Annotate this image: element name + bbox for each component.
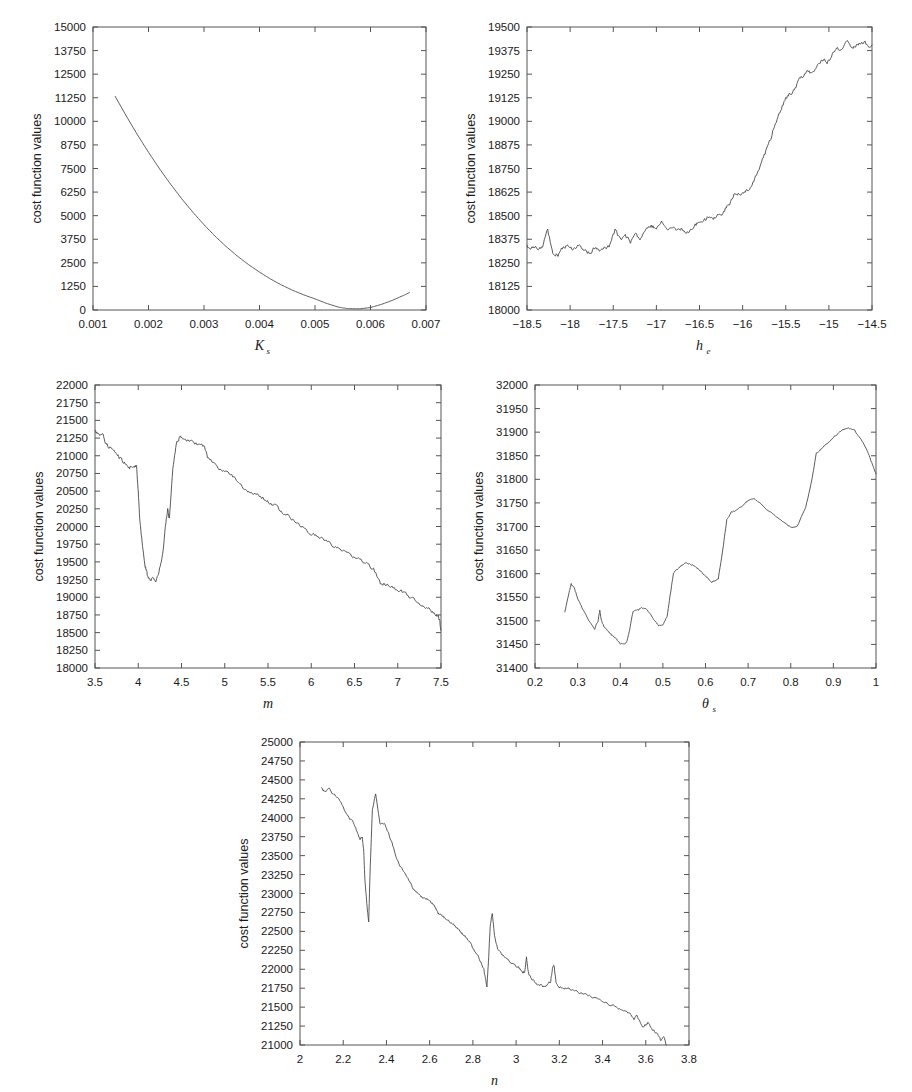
x-tick-label: −17.5 (599, 318, 628, 330)
x-axis-symbol: K (254, 338, 265, 353)
y-tick-label: 22000 (261, 963, 293, 975)
x-tick-label: −18 (560, 318, 580, 330)
plot-area-thetas: 3140031450315003155031600316503170031750… (472, 379, 879, 714)
x-tick-label: −17 (647, 318, 667, 330)
plot-panel-n: 2100021250215002175022000222502250022750… (205, 726, 705, 1092)
x-tick-label: 2.6 (422, 1053, 438, 1065)
x-axis-symbol: m (263, 696, 273, 711)
y-tick-label: 24500 (261, 774, 293, 786)
y-axis-label: cost function values (464, 114, 478, 224)
data-curve (527, 41, 872, 257)
x-tick-label: 3.2 (551, 1053, 567, 1065)
cost-function-figure: 0125025003750500062507500875010000112501… (0, 0, 912, 1092)
x-axis-label: θs (702, 696, 716, 714)
x-tick-label: 0.007 (412, 318, 441, 330)
y-tick-label: 2500 (60, 257, 86, 269)
plot-frame (535, 385, 876, 668)
y-tick-label: 18250 (488, 257, 520, 269)
x-axis-subscript: s (713, 704, 717, 714)
y-tick-label: 19375 (488, 45, 520, 57)
y-tick-label: 20000 (56, 521, 88, 533)
plot-frame (93, 27, 426, 310)
plot-area-n: 2100021250215002175022000222502250022750… (237, 736, 697, 1088)
x-tick-label: 0.002 (134, 318, 163, 330)
y-tick-label: 10000 (54, 115, 86, 127)
x-tick-label: 0.005 (301, 318, 330, 330)
x-tick-label: −14.5 (857, 318, 886, 330)
y-tick-label: 18000 (56, 662, 88, 674)
plot-area-m: 1800018250185001875019000192501950019750… (32, 379, 449, 711)
x-tick-label: −15 (819, 318, 839, 330)
y-tick-label: 31950 (496, 403, 528, 415)
x-tick-label: 3.4 (595, 1053, 612, 1065)
plot-svg-thetas: 3140031450315003155031600316503170031750… (452, 358, 912, 730)
y-tick-label: 21000 (56, 450, 88, 462)
x-tick-label: 0.4 (612, 676, 629, 688)
y-tick-label: 11250 (55, 92, 86, 104)
plot-area-ks: 0125025003750500062507500875010000112501… (30, 21, 440, 356)
data-curve (115, 96, 409, 308)
y-tick-label: 24000 (261, 812, 293, 824)
y-tick-label: 8750 (60, 139, 86, 151)
data-curve (565, 428, 876, 644)
y-tick-label: 7500 (60, 163, 86, 175)
x-tick-label: −15.5 (771, 318, 800, 330)
plot-frame (95, 385, 441, 668)
y-tick-label: 22250 (261, 944, 293, 956)
y-tick-label: 21000 (261, 1039, 293, 1051)
x-tick-label: 4.5 (174, 676, 190, 688)
y-tick-label: 20750 (56, 467, 88, 479)
x-tick-label: 0.5 (655, 676, 671, 688)
x-tick-label: 2.4 (378, 1053, 395, 1065)
y-tick-label: 23750 (261, 831, 293, 843)
plot-svg-ks: 0125025003750500062507500875010000112501… (0, 0, 460, 365)
y-tick-label: 21500 (261, 1001, 293, 1013)
y-tick-label: 3750 (60, 233, 86, 245)
x-tick-label: 1 (873, 676, 879, 688)
x-tick-label: −16 (733, 318, 753, 330)
x-tick-label: 3.8 (681, 1053, 697, 1065)
y-tick-label: 20500 (56, 485, 88, 497)
x-axis-label: m (263, 696, 273, 711)
y-tick-label: 15000 (54, 21, 86, 33)
x-tick-label: −16.5 (685, 318, 714, 330)
y-tick-label: 18750 (488, 163, 520, 175)
x-tick-label: 2.2 (335, 1053, 351, 1065)
x-axis-symbol: h (696, 338, 703, 353)
x-axis-label: n (491, 1073, 498, 1088)
y-tick-label: 18875 (488, 139, 520, 151)
y-tick-label: 19000 (56, 591, 88, 603)
x-axis-symbol: n (491, 1073, 498, 1088)
plot-panel-m: 1800018250185001875019000192501950019750… (0, 358, 460, 730)
x-tick-label: 7 (395, 676, 401, 688)
y-tick-label: 23250 (261, 869, 293, 881)
y-tick-label: 18250 (56, 644, 88, 656)
y-tick-label: 18500 (488, 210, 520, 222)
x-tick-label: 2.8 (465, 1053, 481, 1065)
y-tick-label: 19500 (56, 556, 88, 568)
x-tick-label: 6.5 (347, 676, 363, 688)
x-tick-label: 5 (222, 676, 228, 688)
y-tick-label: 22500 (261, 925, 293, 937)
y-tick-label: 31600 (496, 568, 528, 580)
x-tick-label: 0.3 (570, 676, 586, 688)
data-curve (322, 788, 667, 1045)
y-tick-label: 31800 (496, 473, 528, 485)
x-tick-label: 0.8 (783, 676, 799, 688)
y-tick-label: 23500 (261, 850, 293, 862)
x-tick-label: 3 (513, 1053, 519, 1065)
y-tick-label: 31450 (496, 638, 528, 650)
plot-panel-thetas: 3140031450315003155031600316503170031750… (452, 358, 912, 730)
y-axis-label: cost function values (30, 114, 44, 224)
y-tick-label: 21500 (56, 414, 88, 426)
x-tick-label: −18.5 (512, 318, 541, 330)
x-tick-label: 0.2 (527, 676, 543, 688)
y-tick-label: 22000 (56, 379, 88, 391)
y-tick-label: 31650 (496, 544, 528, 556)
x-axis-label: Ks (254, 338, 271, 356)
x-tick-label: 0.004 (245, 318, 274, 330)
plot-frame (527, 27, 872, 310)
y-tick-label: 13750 (54, 45, 86, 57)
y-tick-label: 31900 (496, 426, 528, 438)
plot-svg-n: 2100021250215002175022000222502250022750… (205, 726, 705, 1092)
